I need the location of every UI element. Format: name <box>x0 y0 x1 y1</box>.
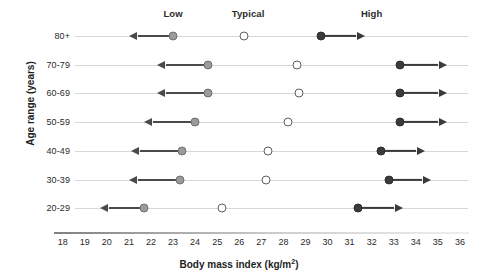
trend-arrow-high <box>381 150 416 152</box>
x-axis-tick-18: 18 <box>58 237 68 247</box>
marker-typical-40-49 <box>263 147 272 156</box>
x-axis-tick-25: 25 <box>212 237 222 247</box>
x-axis-tick-27: 27 <box>256 237 266 247</box>
trend-arrow-high <box>358 207 393 209</box>
trend-arrow-high <box>400 92 438 94</box>
marker-low-20-29 <box>140 204 149 213</box>
band-label-high: High <box>361 8 383 19</box>
marker-typical-80+ <box>239 32 248 41</box>
y-axis-tick-40-49: 40-49 <box>46 146 70 156</box>
y-axis-tick-30-39: 30-39 <box>46 175 70 185</box>
marker-high-70-79 <box>396 61 405 70</box>
y-axis-tick-80+: 80+ <box>54 31 70 41</box>
marker-typical-70-79 <box>292 61 301 70</box>
marker-typical-20-29 <box>217 204 226 213</box>
x-axis-tick-33: 33 <box>389 237 399 247</box>
marker-typical-60-69 <box>294 89 303 98</box>
x-axis-tick-32: 32 <box>367 237 377 247</box>
x-axis-tick-24: 24 <box>190 237 200 247</box>
x-axis-tick-29: 29 <box>300 237 310 247</box>
y-axis-label: Age range (years) <box>25 24 36 184</box>
marker-high-20-29 <box>354 204 363 213</box>
x-axis-tick-28: 28 <box>278 237 288 247</box>
x-axis-tick-19: 19 <box>80 237 90 247</box>
trend-arrow-low <box>166 64 208 66</box>
bmi-by-age-chart: LowTypicalHigh 80+70-7960-6950-5940-4930… <box>0 0 478 280</box>
x-axis-line <box>54 232 469 234</box>
marker-low-30-39 <box>175 176 184 185</box>
x-axis-tick-21: 21 <box>124 237 134 247</box>
marker-typical-30-39 <box>261 176 270 185</box>
x-axis-tick-20: 20 <box>102 237 112 247</box>
trend-arrow-low <box>153 121 195 123</box>
trend-arrow-high <box>321 35 356 37</box>
x-axis-tick-23: 23 <box>168 237 178 247</box>
marker-low-70-79 <box>204 61 213 70</box>
marker-low-60-69 <box>204 89 213 98</box>
trend-arrow-high <box>400 64 438 66</box>
marker-high-40-49 <box>376 147 385 156</box>
x-axis-tick-26: 26 <box>234 237 244 247</box>
x-axis-tick-31: 31 <box>345 237 355 247</box>
x-axis-tick-30: 30 <box>323 237 333 247</box>
trend-arrow-low <box>138 179 180 181</box>
marker-low-40-49 <box>177 147 186 156</box>
x-axis-tick-35: 35 <box>433 237 443 247</box>
x-axis-tick-22: 22 <box>146 237 156 247</box>
y-axis-tick-70-79: 70-79 <box>46 60 70 70</box>
marker-low-80+ <box>169 32 178 41</box>
band-label-low: Low <box>163 8 182 19</box>
marker-high-30-39 <box>385 176 394 185</box>
marker-typical-50-59 <box>283 118 292 127</box>
y-axis-tick-60-69: 60-69 <box>46 88 70 98</box>
x-axis-tick-36: 36 <box>455 237 465 247</box>
marker-low-50-59 <box>191 118 200 127</box>
x-axis-label: Body mass index (kg/m2) <box>0 258 478 270</box>
y-axis-tick-20-29: 20-29 <box>46 203 70 213</box>
trend-arrow-high <box>400 121 438 123</box>
y-axis-tick-50-59: 50-59 <box>46 117 70 127</box>
trend-arrow-low <box>140 150 182 152</box>
trend-arrow-high <box>389 179 422 181</box>
x-axis-tick-34: 34 <box>411 237 421 247</box>
marker-high-60-69 <box>396 89 405 98</box>
marker-high-50-59 <box>396 118 405 127</box>
marker-high-80+ <box>316 32 325 41</box>
trend-arrow-low <box>166 92 208 94</box>
band-label-typical: Typical <box>232 8 265 19</box>
